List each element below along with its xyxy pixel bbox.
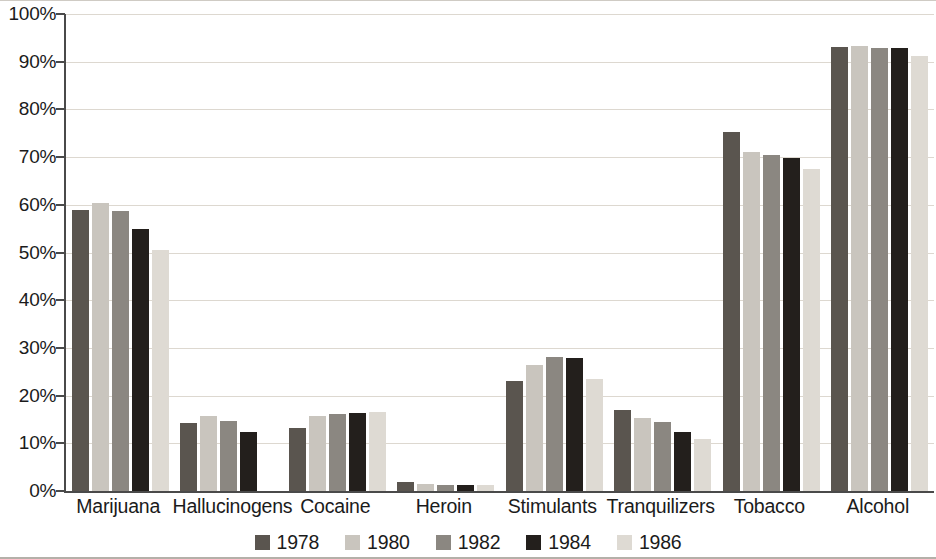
bar xyxy=(369,412,386,491)
x-axis-category-label: Marijuana xyxy=(64,495,173,518)
y-axis-tick-label: 0% xyxy=(2,481,56,500)
page-edge-top xyxy=(0,0,936,1)
chart-legend: 19781980198219841986 xyxy=(0,528,936,556)
bar xyxy=(871,48,888,491)
bar-group xyxy=(500,14,609,491)
bar xyxy=(634,418,651,491)
y-axis-tickmark xyxy=(56,61,65,63)
y-axis-tick-label: 80% xyxy=(2,99,56,118)
bar xyxy=(180,423,197,491)
legend-item[interactable]: 1980 xyxy=(345,532,410,552)
y-axis-tick-label: 40% xyxy=(2,290,56,309)
legend-swatch-icon xyxy=(526,535,541,550)
y-axis-tick-label: 100% xyxy=(2,4,56,23)
bar xyxy=(891,48,908,491)
bar-group xyxy=(175,14,284,491)
legend-label: 1984 xyxy=(548,532,591,552)
bar-group xyxy=(609,14,718,491)
bar xyxy=(614,410,631,491)
bar xyxy=(851,46,868,491)
y-axis-tickmark xyxy=(56,347,65,349)
bar xyxy=(112,211,129,491)
y-axis-tickmark xyxy=(56,442,65,444)
bar xyxy=(437,485,454,491)
x-axis-category-label: Cocaine xyxy=(281,495,390,518)
bar xyxy=(72,210,89,491)
x-axis-category-label: Heroin xyxy=(390,495,499,518)
bar xyxy=(803,169,820,491)
y-axis-tick-labels: 0%10%20%30%40%50%60%70%80%90%100% xyxy=(0,0,56,500)
bar-group xyxy=(826,14,935,491)
y-axis-tick-label: 30% xyxy=(2,338,56,357)
bar xyxy=(417,484,434,491)
legend-label: 1982 xyxy=(458,532,501,552)
x-axis-category-label: Hallucinogens xyxy=(173,495,282,518)
legend-swatch-icon xyxy=(617,535,632,550)
y-axis-tickmark xyxy=(56,204,65,206)
y-axis-tickmark xyxy=(56,299,65,301)
x-axis-category-label: Stimulants xyxy=(498,495,607,518)
bar xyxy=(763,155,780,491)
y-axis-tick-label: 50% xyxy=(2,243,56,262)
legend-label: 1986 xyxy=(639,532,682,552)
bar xyxy=(694,439,711,491)
bar xyxy=(743,152,760,491)
y-axis-tick-label: 10% xyxy=(2,433,56,452)
bar xyxy=(240,432,257,491)
legend-label: 1980 xyxy=(367,532,410,552)
y-axis-tickmark xyxy=(56,108,65,110)
bar xyxy=(309,416,326,491)
bar-groups xyxy=(66,14,934,491)
bar xyxy=(546,357,563,491)
bar xyxy=(723,132,740,491)
x-axis-category-label: Tranquilizers xyxy=(607,495,716,518)
bar xyxy=(92,203,109,491)
legend-item[interactable]: 1982 xyxy=(436,532,501,552)
x-axis-category-label: Alcohol xyxy=(824,495,933,518)
bar xyxy=(220,421,237,491)
bar xyxy=(349,413,366,491)
bar xyxy=(586,379,603,491)
y-axis-tickmark xyxy=(56,395,65,397)
bar xyxy=(289,428,306,491)
bar xyxy=(526,365,543,491)
bar xyxy=(911,56,928,491)
bar-group xyxy=(717,14,826,491)
legend-item[interactable]: 1984 xyxy=(526,532,591,552)
bar xyxy=(674,432,691,491)
bar xyxy=(506,381,523,491)
y-axis-tick-label: 70% xyxy=(2,147,56,166)
y-axis-tickmark xyxy=(56,13,65,15)
bar xyxy=(200,416,217,491)
bar xyxy=(132,229,149,491)
y-axis-tick-label: 60% xyxy=(2,195,56,214)
legend-label: 1978 xyxy=(277,532,320,552)
bar xyxy=(477,485,494,491)
legend-item[interactable]: 1978 xyxy=(255,532,320,552)
bar-group xyxy=(66,14,175,491)
plot-area xyxy=(64,14,934,493)
bar xyxy=(831,47,848,491)
bar-group xyxy=(283,14,392,491)
y-axis-tickmark xyxy=(56,156,65,158)
x-axis-category-labels: MarijuanaHallucinogensCocaineHeroinStimu… xyxy=(64,495,932,521)
y-axis-tick-label: 90% xyxy=(2,52,56,71)
bar xyxy=(397,482,414,491)
legend-swatch-icon xyxy=(255,535,270,550)
x-axis-category-label: Tobacco xyxy=(715,495,824,518)
bar xyxy=(566,358,583,491)
bar-chart: 0%10%20%30%40%50%60%70%80%90%100% Mariju… xyxy=(0,0,936,559)
bar-group xyxy=(392,14,501,491)
legend-item[interactable]: 1986 xyxy=(617,532,682,552)
y-axis-tickmark xyxy=(56,252,65,254)
bar xyxy=(783,158,800,491)
bar xyxy=(654,422,671,491)
legend-swatch-icon xyxy=(436,535,451,550)
y-axis-tickmark xyxy=(56,490,65,492)
bar xyxy=(457,485,474,491)
y-axis-tick-label: 20% xyxy=(2,386,56,405)
bar xyxy=(329,414,346,491)
bar xyxy=(152,250,169,491)
legend-swatch-icon xyxy=(345,535,360,550)
